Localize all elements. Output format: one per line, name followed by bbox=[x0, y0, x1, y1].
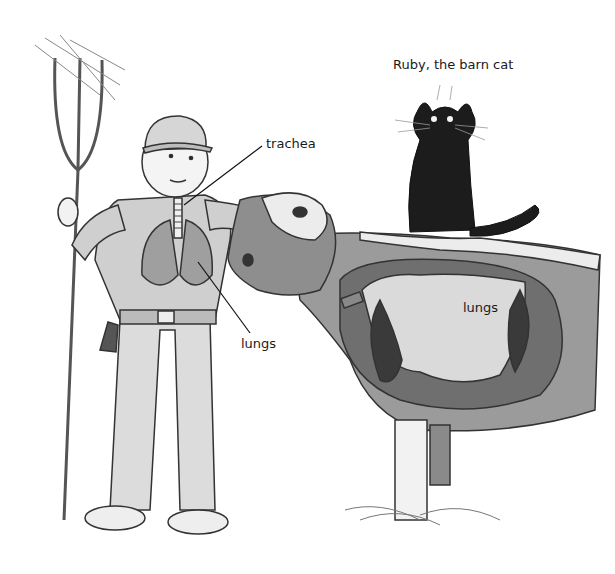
cat-label: Ruby, the barn cat bbox=[393, 57, 513, 72]
trachea-label: trachea bbox=[266, 136, 316, 151]
farmer-lungs-label: lungs bbox=[241, 336, 276, 351]
cow-lungs-label: lungs bbox=[463, 300, 498, 315]
farmer bbox=[58, 116, 270, 534]
cow bbox=[228, 193, 600, 525]
cat bbox=[395, 85, 539, 236]
drawing-canvas bbox=[0, 0, 615, 574]
illustration: Ruby, the barn cat trachea lungs lungs bbox=[0, 0, 615, 574]
